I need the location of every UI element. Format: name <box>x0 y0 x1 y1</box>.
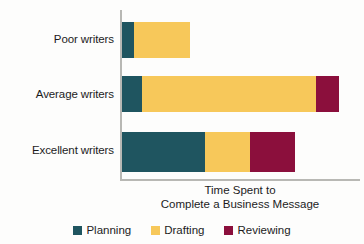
bar-segment-drafting <box>142 76 316 112</box>
bar-segment-drafting <box>205 132 250 172</box>
legend-item-reviewing: Reviewing <box>224 224 290 236</box>
bar-segment-planning <box>122 76 142 112</box>
legend-item-drafting: Drafting <box>151 224 204 236</box>
legend-label: Planning <box>86 224 131 236</box>
chart-legend: Planning Drafting Reviewing <box>0 224 364 236</box>
legend-label: Drafting <box>164 224 204 236</box>
legend-label: Reviewing <box>237 224 290 236</box>
plot-area: Poor writers Average writers Excellent w… <box>0 0 364 182</box>
bar-row <box>122 76 339 112</box>
bar-row <box>122 22 190 58</box>
x-axis-title-line-2: Complete a Business Message <box>120 197 360 211</box>
category-label-excellent-writers: Excellent writers <box>32 144 114 156</box>
bar-segment-reviewing <box>316 76 339 112</box>
bar-segment-planning <box>122 132 205 172</box>
category-label-poor-writers: Poor writers <box>54 33 114 45</box>
legend-swatch-icon <box>224 226 233 235</box>
category-label-average-writers: Average writers <box>36 88 114 100</box>
legend-swatch-icon <box>151 226 160 235</box>
bar-row <box>122 132 295 172</box>
bar-segment-drafting <box>134 22 190 58</box>
bar-segment-planning <box>122 22 134 58</box>
bar-segment-reviewing <box>250 132 295 172</box>
x-axis-title-line-1: Time Spent to <box>120 183 360 197</box>
legend-item-planning: Planning <box>73 224 131 236</box>
legend-swatch-icon <box>73 226 82 235</box>
stacked-bar-chart: Poor writers Average writers Excellent w… <box>0 0 364 244</box>
x-axis-line <box>120 179 360 181</box>
x-axis-title: Time Spent to Complete a Business Messag… <box>120 183 360 211</box>
